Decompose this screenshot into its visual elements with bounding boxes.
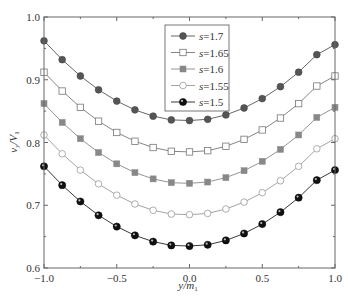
data-point [168,148,174,154]
data-point [150,238,157,245]
data-point [95,118,101,124]
x-tick-label: 1.0 [328,272,342,284]
data-point [314,83,320,89]
legend-marker [180,33,187,40]
legend: s=1.7s=1.65s=1.6s=1.55s=1.5 [165,25,229,111]
series-1.6 [41,101,338,187]
data-point [313,51,320,58]
series-1.5 [40,163,338,250]
line-chart: −1.0−0.50.00.51.00.60.70.80.91.0 y/m1 vy… [0,0,348,296]
legend-label: s=1.7 [199,30,224,42]
data-point [259,127,265,133]
x-tick-label: 0.5 [255,272,269,284]
data-point [59,182,66,189]
data-point [313,177,320,184]
data-point [96,150,102,156]
legend-label: s=1.5 [199,96,224,108]
data-point [132,170,138,176]
data-point [168,180,174,186]
data-point [132,106,139,113]
data-point [59,119,65,125]
legend-label: s=1.55 [199,80,229,92]
data-point [204,147,210,153]
data-point [259,95,266,102]
data-point [240,230,247,237]
data-point [186,149,192,155]
data-point [241,168,247,174]
data-point [59,56,66,63]
data-point [204,116,211,123]
data-point [168,242,175,249]
data-point [150,144,156,150]
data-point [241,199,248,206]
data-point [241,105,248,112]
data-point [295,100,301,106]
legend-label: s=1.65 [199,47,229,59]
data-point [295,163,302,170]
x-axis-label-sub: 1 [194,285,198,293]
y-tick-label: 0.8 [26,137,40,149]
data-point [223,206,230,213]
data-point [132,138,138,144]
data-point [259,220,266,227]
data-point [77,104,83,110]
data-point [295,69,302,76]
data-point [277,115,283,121]
data-point [223,143,229,149]
data-point [95,212,102,219]
data-point [77,167,84,174]
y-axis-label: vy/V1 [7,131,21,153]
y-tick-label: 1.0 [26,11,40,23]
data-point [77,198,84,205]
data-point [241,136,247,142]
x-axis-label-main: y/m [177,279,194,291]
data-point [259,189,266,196]
y-tick-label: 0.9 [26,74,40,86]
data-point [205,179,211,185]
data-point [168,211,175,218]
data-point [223,175,229,181]
legend-marker [180,49,186,55]
series-line [44,166,335,246]
data-point [296,132,302,138]
y-tick-label: 0.6 [26,262,40,274]
data-point [187,180,193,186]
legend-label: s=1.6 [199,63,224,75]
data-point [259,158,265,164]
data-point [95,86,102,93]
y-axis-label-sub2: 1 [13,131,21,135]
data-point [204,241,211,248]
legend-marker [180,66,186,72]
data-point [114,161,120,167]
data-point [59,88,65,94]
data-point [95,181,102,188]
data-point [150,207,157,214]
data-point [314,114,320,120]
data-point [186,117,193,124]
x-tick-label: −0.5 [107,272,127,284]
data-point [277,83,284,90]
data-point [150,176,156,182]
data-point [186,242,193,249]
data-point [314,145,321,152]
svg-text:vy/V1: vy/V1 [7,131,21,153]
data-point [150,113,157,120]
series-line [44,135,335,215]
data-point [222,237,229,244]
data-point [77,136,83,142]
data-point [114,129,120,135]
legend-marker [179,98,186,105]
data-point [186,211,193,218]
data-point [113,223,120,230]
data-point [222,111,229,118]
data-point [168,117,175,124]
data-point [277,146,283,152]
data-point [59,150,66,157]
data-point [204,210,211,217]
data-point [77,73,84,80]
legend-marker [180,82,187,89]
data-point [113,192,120,199]
data-point [295,194,302,201]
data-point [277,177,284,184]
data-point [131,232,138,239]
